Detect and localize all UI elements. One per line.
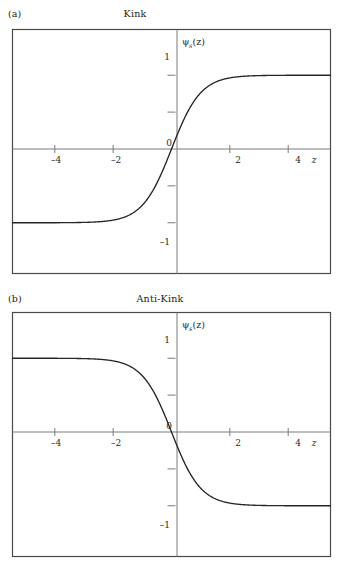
x-axis-label-a: z — [311, 155, 317, 165]
y-tick-label-b-0: 1 — [164, 335, 170, 345]
plot-frame-b — [13, 313, 331, 557]
origin-label-a: 0 — [166, 138, 172, 148]
y-tick-label-b-1: –1 — [160, 520, 170, 530]
x-axis-label-b: z — [311, 438, 317, 448]
origin-label-b: 0 — [166, 421, 172, 431]
x-tick-label-b-1: –2 — [111, 438, 121, 448]
y-axis-label-b-argument: (z) — [193, 319, 205, 330]
plot-area-a: –4 –2 2 4 1 –1 0 z ψ s (z) — [0, 0, 343, 285]
x-tick-label-b-3: 4 — [295, 438, 301, 448]
figure-panel-a: (a) Kink –4 –2 2 4 1 –1 0 z ψ s (z) — [0, 0, 343, 285]
y-tick-label-a-0: 1 — [164, 52, 170, 62]
x-tick-label-a-3: 4 — [295, 155, 301, 165]
x-tick-label-a-0: –4 — [51, 155, 62, 165]
y-axis-label-a-argument: (z) — [193, 36, 205, 47]
plot-frame-a — [13, 30, 331, 274]
y-tick-label-a-1: –1 — [160, 237, 170, 247]
figure-panel-b: (b) Anti-Kink –4 –2 2 4 1 –1 0 z ψ s (z) — [0, 285, 343, 574]
x-tick-label-a-1: –2 — [111, 155, 121, 165]
x-tick-label-a-2: 2 — [235, 155, 241, 165]
plot-area-b: –4 –2 2 4 1 –1 0 z ψ s (z) — [0, 285, 343, 574]
x-tick-label-b-2: 2 — [235, 438, 241, 448]
y-axis-label-b: ψ s (z) — [182, 319, 205, 333]
x-tick-label-b-0: –4 — [51, 438, 62, 448]
y-axis-label-a: ψ s (z) — [182, 36, 205, 50]
